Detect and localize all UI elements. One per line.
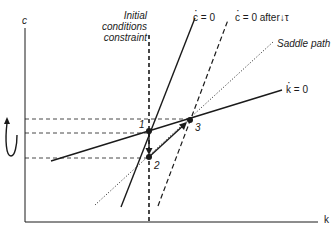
c-dot-zero-after-line (158, 20, 228, 206)
c-dot-zero-after-label: c = 0 after↓τ (235, 12, 289, 23)
c-dot-zero-label: c = 0 (193, 12, 215, 23)
point-3 (187, 117, 193, 123)
x-axis-label: k (324, 214, 329, 225)
c-dot-zero-line (121, 18, 195, 207)
initial-conditions-label: Initial conditions constraint (100, 10, 147, 43)
point-2-label: 2 (154, 160, 160, 171)
initial-conditions-line-2: conditions (100, 21, 147, 32)
c-dot-zero-after-text: c = 0 after↓τ (235, 12, 289, 23)
k-dot-zero-text: k = 0 (286, 84, 308, 95)
point-1-label: 1 (139, 119, 145, 130)
point-1 (146, 128, 152, 134)
point-3-label: 3 (195, 122, 201, 133)
y-axis-label: c (22, 15, 27, 26)
c-dot-zero-text: c = 0 (193, 12, 215, 23)
k-dot-zero-line (51, 90, 282, 161)
point-2 (146, 154, 152, 160)
u-turn-arrow (6, 123, 17, 156)
k-dot-zero-label: k = 0 (286, 84, 308, 95)
initial-conditions-line-1: Initial (100, 10, 147, 21)
phase-diagram (0, 0, 335, 229)
u-turn-arrowhead (4, 117, 10, 124)
saddle-path-label: Saddle path (277, 38, 330, 49)
diagram-root: c k Initial conditions constraint c = 0 … (0, 0, 335, 229)
initial-conditions-line-3: constraint (100, 32, 147, 43)
